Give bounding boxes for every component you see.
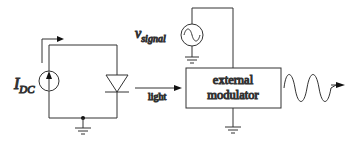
modulated-light-wave-icon — [284, 75, 345, 102]
ground-icon — [185, 57, 199, 63]
current-source-label: IDC — [13, 75, 35, 95]
laser-diode-icon — [105, 75, 129, 92]
current-source-icon — [39, 71, 59, 91]
signal-source-label: vsignal — [135, 26, 166, 44]
ac-source-icon — [181, 24, 203, 46]
diagram-canvas: IDC light vsignal external modulator — [0, 0, 362, 143]
modulator-label-line2: modulator — [207, 88, 259, 102]
light-label: light — [148, 91, 167, 102]
current-direction-arrow-icon — [42, 36, 64, 63]
modulator-label-line1: external — [213, 73, 254, 87]
ground-icon — [225, 108, 241, 133]
ground-icon — [75, 116, 91, 134]
